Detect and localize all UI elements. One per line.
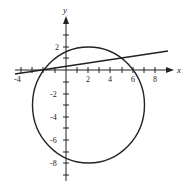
y-tick-label: -2 (50, 90, 57, 99)
y-tick-label: 2 (55, 43, 59, 52)
plot-canvas: x y -4 2 4 6 8 2 -2 -4 -6 -8 (0, 0, 190, 187)
y-tick-label: -6 (50, 136, 57, 145)
x-axis-label: x (176, 65, 181, 75)
circle-shape (33, 47, 145, 163)
line-shape (15, 51, 168, 74)
x-tick-label: 6 (131, 75, 135, 84)
y-axis-label: y (62, 5, 67, 15)
x-tick-label: -4 (14, 75, 21, 84)
x-tick-label: 2 (86, 75, 90, 84)
y-axis-arrow-icon (63, 16, 69, 24)
y-tick-label: -8 (50, 159, 57, 168)
coordinate-diagram: x y -4 2 4 6 8 2 -2 -4 -6 -8 (0, 0, 190, 187)
y-tick-label: -4 (50, 113, 57, 122)
x-tick-label: 8 (153, 75, 157, 84)
x-tick-label: 4 (108, 75, 112, 84)
x-axis-arrow-icon (166, 67, 174, 73)
